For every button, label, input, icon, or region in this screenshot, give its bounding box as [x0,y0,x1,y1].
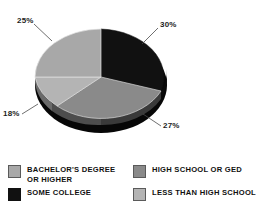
legend-label-bachelors-or-higher: BACHELOR'S DEGREE OR HIGHER [27,165,115,184]
legend-label-some-college: SOME COLLEGE [27,188,91,198]
legend-label-high-school-or-ged: HIGH SCHOOL OR GED [152,165,242,175]
legend-swatch-some-college [8,188,21,201]
legend-item-high-school-or-ged[interactable]: HIGH SCHOOL OR GED [133,165,242,178]
legend-swatch-high-school-or-ged [133,165,146,178]
pie-label-bachelors-pct: 25% [17,17,34,25]
pie-svg [0,0,265,160]
legend-column-left: BACHELOR'S DEGREE OR HIGHER SOME COLLEGE [8,163,130,211]
legend-swatch-bachelors-or-higher [8,165,21,178]
legend-swatch-less-than-high-school [133,188,146,201]
legend-column-right: HIGH SCHOOL OR GED LESS THAN HIGH SCHOOL [133,163,265,211]
pie-label-high-school-or-ged-pct: 27% [163,122,180,130]
pie-label-less-than-high-school-pct: 18% [3,110,20,118]
leader-line-30 [142,28,158,44]
leader-line-18 [22,104,38,114]
legend: BACHELOR'S DEGREE OR HIGHER SOME COLLEGE… [0,163,265,211]
plot-area: 25% 30% 18% 27% [0,0,265,160]
legend-label-less-than-high-school: LESS THAN HIGH SCHOOL [152,188,256,198]
pie-chart-figure: 25% 30% 18% 27% BACHELOR'S DEGREE OR HIG… [0,0,265,211]
legend-item-some-college[interactable]: SOME COLLEGE [8,188,91,201]
legend-item-less-than-high-school[interactable]: LESS THAN HIGH SCHOOL [133,188,256,201]
legend-item-bachelors-or-higher[interactable]: BACHELOR'S DEGREE OR HIGHER [8,165,115,184]
pie-slice-bachelors-or-higher[interactable] [35,29,101,77]
leader-line-25 [34,24,52,41]
pie-label-some-college-pct: 30% [160,21,177,29]
